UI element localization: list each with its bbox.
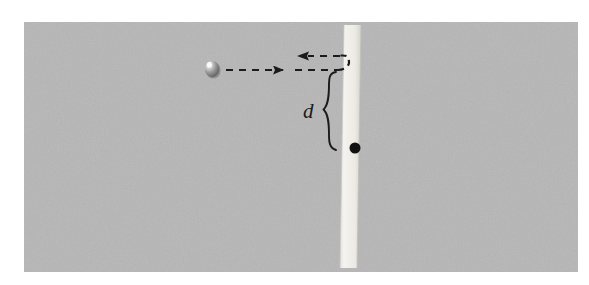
pivot-point bbox=[350, 143, 361, 154]
diagram-svg bbox=[0, 0, 589, 285]
distance-label-d: d bbox=[303, 101, 314, 122]
gray-background-panel bbox=[24, 22, 578, 272]
figure-canvas: d bbox=[0, 0, 589, 285]
